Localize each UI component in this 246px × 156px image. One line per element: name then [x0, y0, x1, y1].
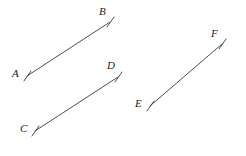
point-label-b: B: [99, 6, 106, 17]
geometry-figure: ABCDEF: [0, 0, 246, 156]
segment-ab-endpoint-tick-a: [24, 71, 31, 81]
segment-cd: [32, 72, 122, 136]
point-label-a: A: [12, 68, 19, 79]
segment-cd-line: [35, 77, 118, 131]
segment-ef-endpoint-tick-f: [219, 39, 226, 49]
point-label-e: E: [135, 98, 142, 109]
segment-ab-endpoint-tick-b: [107, 17, 114, 27]
segment-ef: [147, 39, 226, 111]
segment-ef-line: [150, 44, 222, 106]
segments-group: [24, 17, 226, 136]
point-label-f: F: [211, 28, 218, 39]
segment-ab: [24, 17, 114, 81]
segment-cd-endpoint-tick-d: [115, 72, 122, 82]
point-label-c: C: [20, 123, 27, 134]
point-label-d: D: [107, 60, 115, 71]
figure-canvas: [0, 0, 246, 156]
segment-ab-line: [27, 22, 110, 76]
segment-ef-endpoint-tick-e: [147, 101, 154, 111]
segment-cd-endpoint-tick-c: [32, 126, 39, 136]
